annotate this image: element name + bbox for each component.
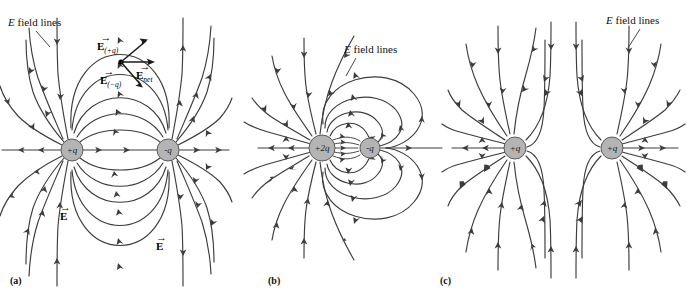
annotation-field-lines-c: E field lines <box>605 14 659 48</box>
vector-subscript: net <box>143 75 153 84</box>
panel-a-field-lines <box>0 18 232 286</box>
charge-positive-q-c-right: +q <box>601 137 623 159</box>
vector-label-E-right: E → <box>156 231 167 252</box>
panel-c-field-lines <box>442 22 685 278</box>
panel-b-field-lines <box>244 36 442 260</box>
vector-subscript: (−q) <box>107 80 121 89</box>
vector-arrow-accent: → <box>101 31 112 43</box>
panel-a: +q -q E(+q) → Enet <box>0 16 232 287</box>
leader-line <box>628 29 640 48</box>
caption-a: (a) <box>10 275 22 287</box>
vector-label-E-left: E → <box>60 201 71 222</box>
vector-subscript: (+q) <box>104 46 118 55</box>
E-arrow-accent: → <box>60 201 71 213</box>
caption-c: (c) <box>440 275 451 287</box>
charge-positive-2q-b: +2q <box>309 135 335 161</box>
charge-label: +q <box>67 145 78 155</box>
charge-label: -q <box>164 145 172 155</box>
vector-arrow-accent: → <box>104 65 115 77</box>
E-arrow-accent: → <box>156 231 167 243</box>
charge-label: +q <box>607 143 618 153</box>
annotation-field-lines-a: E field lines <box>7 16 61 47</box>
figure-canvas: +q -q E(+q) → Enet <box>0 0 687 304</box>
charge-label: -q <box>366 143 374 153</box>
vector-label-E-minus-q: E(−q) → <box>100 65 122 89</box>
vector-arrow-accent: → <box>140 60 151 72</box>
caption-b: (b) <box>268 275 280 287</box>
vector-E-plus-q-head <box>138 38 148 46</box>
annotation-field-lines-b: E field lines <box>343 43 397 76</box>
field-lines-label: E field lines <box>7 16 61 28</box>
leader-line <box>36 31 50 47</box>
field-lines-label: E field lines <box>605 14 659 26</box>
vector-label-E-plus-q: E(+q) → <box>97 31 119 55</box>
charge-negative-q-a: -q <box>157 139 179 161</box>
charge-label: +2q <box>314 143 330 153</box>
charge-positive-q-a: +q <box>61 139 83 161</box>
charge-label: +q <box>510 143 521 153</box>
electric-field-lines-figure: +q -q E(+q) → Enet <box>0 0 687 304</box>
charge-positive-q-c-left: +q <box>504 137 526 159</box>
panel-b: +2q -q E field lines (b) <box>244 36 442 287</box>
field-lines-label: E field lines <box>343 43 397 55</box>
panel-c: +q +q E field lines (c) <box>440 14 685 287</box>
charge-negative-q-b: -q <box>360 138 380 158</box>
